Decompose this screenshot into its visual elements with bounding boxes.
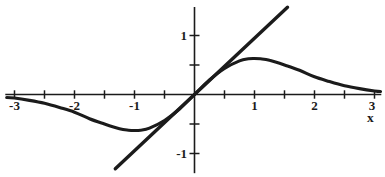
x-axis-label: x bbox=[367, 110, 374, 125]
plot-canvas: -3-2-1123 -11 x bbox=[0, 0, 385, 177]
x-tick-label: -1 bbox=[129, 98, 140, 113]
plot-figure: -3-2-1123 -11 x bbox=[0, 0, 385, 177]
axes bbox=[6, 8, 380, 173]
y-tick-label: -1 bbox=[176, 146, 187, 161]
tangent-line bbox=[115, 7, 287, 169]
x-tick-label: 1 bbox=[251, 98, 258, 113]
x-tick-label: 2 bbox=[311, 98, 318, 113]
x-tick-label: -3 bbox=[9, 98, 20, 113]
y-tick-label: 1 bbox=[181, 28, 188, 43]
x-tick-labels: -3-2-1123 bbox=[9, 98, 376, 113]
